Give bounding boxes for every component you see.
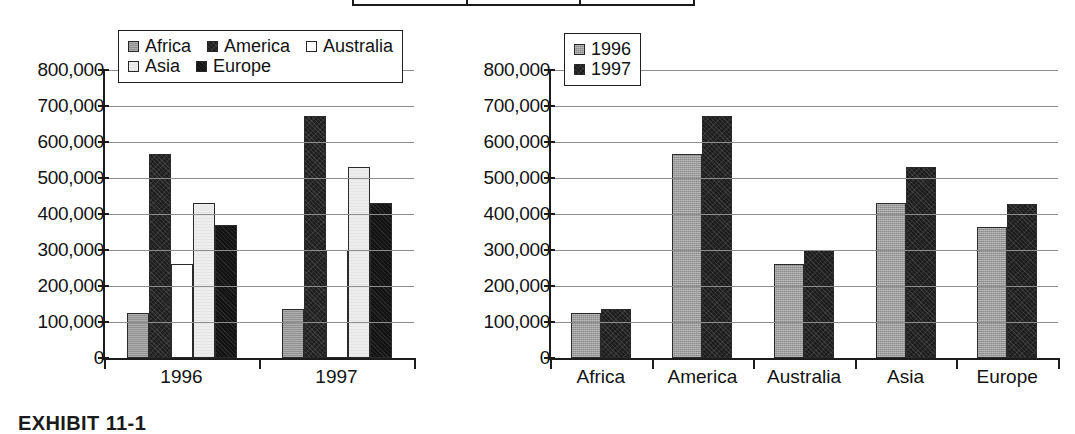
- y-axis-tick-mark: [544, 249, 555, 251]
- legend-item-asia[interactable]: Asia: [128, 56, 180, 76]
- legend-swatch-1996: [574, 44, 585, 55]
- gridline: [104, 250, 414, 251]
- bar-1997-africa[interactable]: [601, 309, 631, 358]
- x-axis-baseline: [550, 358, 1058, 360]
- chart-legend[interactable]: 19961997: [564, 33, 641, 86]
- bar-1996-asia[interactable]: [876, 203, 906, 358]
- legend-label: Australia: [323, 36, 393, 56]
- bar-1996-australia[interactable]: [774, 264, 804, 358]
- y-axis-tick-mark: [98, 105, 109, 107]
- y-axis-tick-mark: [544, 321, 555, 323]
- y-axis-tick-mark: [544, 357, 555, 359]
- y-axis-tick-label: 700,000: [483, 95, 550, 117]
- legend-item-1997[interactable]: 1997: [574, 59, 631, 79]
- gridline: [550, 214, 1058, 215]
- legend-swatch-asia: [128, 61, 139, 72]
- legend-item-europe[interactable]: Europe: [196, 56, 271, 76]
- x-axis-tick-mark: [1058, 358, 1060, 369]
- y-axis-tick-label: 300,000: [37, 239, 104, 261]
- legend-row: 1996: [574, 39, 631, 59]
- y-axis-tick-mark: [98, 213, 109, 215]
- gridline: [550, 322, 1058, 323]
- x-axis-category-label: 1996: [160, 366, 202, 388]
- bar-asia-1997[interactable]: [348, 167, 370, 358]
- y-axis-tick-label: 300,000: [483, 239, 550, 261]
- legend-item-1996[interactable]: 1996: [574, 39, 631, 59]
- gridline: [550, 178, 1058, 179]
- bar-europe-1997[interactable]: [370, 203, 392, 358]
- y-axis-tick-label: 100,000: [37, 311, 104, 333]
- bar-1997-asia[interactable]: [906, 167, 936, 358]
- exhibit-caption: EXHIBIT 11-1: [18, 412, 146, 434]
- legend-swatch-europe: [196, 61, 207, 72]
- bar-1997-europe[interactable]: [1007, 204, 1037, 358]
- y-axis-tick-mark: [98, 357, 109, 359]
- gridline: [550, 142, 1058, 143]
- bar-1996-africa[interactable]: [571, 313, 601, 358]
- gridline: [104, 178, 414, 179]
- x-axis-tick-mark: [414, 358, 416, 369]
- y-axis-tick-labels: 800,000700,000600,000500,000400,000300,0…: [0, 0, 104, 400]
- bar-africa-1996[interactable]: [127, 313, 149, 358]
- grouped-by-year-chart: 800,000700,000600,000500,000400,000300,0…: [0, 0, 440, 400]
- x-axis-category-label: Europe: [977, 366, 1038, 388]
- legend-label: Asia: [145, 56, 180, 76]
- x-axis-category-label: Asia: [887, 366, 924, 388]
- y-axis-tick-label: 500,000: [37, 167, 104, 189]
- gridline: [104, 214, 414, 215]
- legend-label: 1997: [591, 59, 631, 79]
- bar-1996-europe[interactable]: [977, 227, 1007, 358]
- x-axis-category-label: America: [668, 366, 738, 388]
- y-axis-line: [549, 70, 551, 360]
- bar-america-1996[interactable]: [149, 154, 171, 358]
- bar-australia-1997[interactable]: [326, 250, 348, 358]
- y-axis-tick-label: 800,000: [37, 59, 104, 81]
- bar-europe-1996[interactable]: [215, 225, 237, 358]
- y-axis-tick-mark: [98, 321, 109, 323]
- legend-row: AsiaEurope: [128, 56, 393, 76]
- legend-item-africa[interactable]: Africa: [128, 36, 191, 56]
- gridline: [104, 322, 414, 323]
- bar-1996-america[interactable]: [672, 154, 702, 358]
- y-axis-tick-mark: [544, 213, 555, 215]
- y-axis-line: [103, 70, 105, 360]
- y-axis-tick-labels: 800,000700,000600,000500,000400,000300,0…: [432, 0, 550, 400]
- y-axis-tick-mark: [544, 105, 555, 107]
- bar-australia-1996[interactable]: [171, 264, 193, 358]
- y-axis-tick-mark: [98, 249, 109, 251]
- y-axis-tick-mark: [98, 69, 109, 71]
- y-axis-tick-label: 400,000: [483, 203, 550, 225]
- y-axis-tick-mark: [98, 141, 109, 143]
- y-axis-tick-mark: [98, 285, 109, 287]
- y-axis-tick-label: 800,000: [483, 59, 550, 81]
- legend-item-america[interactable]: America: [207, 36, 290, 56]
- bar-1997-australia[interactable]: [804, 250, 834, 358]
- y-axis-tick-mark: [544, 141, 555, 143]
- y-axis-tick-label: 400,000: [37, 203, 104, 225]
- y-axis-tick-label: 500,000: [483, 167, 550, 189]
- y-axis-tick-label: 700,000: [37, 95, 104, 117]
- x-axis-category-label: Australia: [767, 366, 841, 388]
- legend-item-australia[interactable]: Australia: [306, 36, 393, 56]
- gridline: [550, 286, 1058, 287]
- legend-swatch-africa: [128, 41, 139, 52]
- y-axis-tick-label: 100,000: [483, 311, 550, 333]
- x-axis-category-label: Africa: [577, 366, 626, 388]
- y-axis-tick-label: 600,000: [37, 131, 104, 153]
- legend-label: Europe: [213, 56, 271, 76]
- bar-asia-1996[interactable]: [193, 203, 215, 358]
- bar-africa-1997[interactable]: [282, 309, 304, 358]
- gridline: [104, 142, 414, 143]
- legend-label: Africa: [145, 36, 191, 56]
- gridline: [550, 106, 1058, 107]
- x-axis-baseline: [104, 358, 414, 360]
- legend-row: AfricaAmericaAustralia: [128, 36, 393, 56]
- chart-legend[interactable]: AfricaAmericaAustraliaAsiaEurope: [118, 30, 403, 83]
- gridline: [104, 286, 414, 287]
- x-axis-category-label: 1997: [315, 366, 357, 388]
- grouped-by-region-chart: 800,000700,000600,000500,000400,000300,0…: [440, 0, 1075, 400]
- legend-label: America: [224, 36, 290, 56]
- y-axis-tick-mark: [544, 285, 555, 287]
- y-axis-tick-mark: [544, 69, 555, 71]
- y-axis-tick-label: 600,000: [483, 131, 550, 153]
